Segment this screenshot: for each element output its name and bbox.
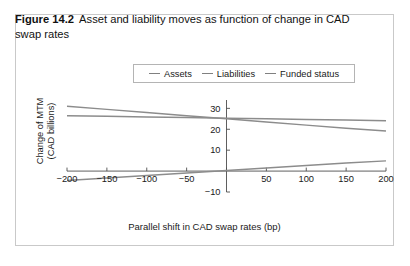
- legend-item-assets: Assets: [149, 69, 192, 79]
- x-axis-tick-label: −150: [96, 174, 117, 184]
- legend-label-assets: Assets: [164, 69, 192, 79]
- figure-label: Figure 14.2: [15, 13, 74, 25]
- x-axis-tick-label: 150: [338, 174, 354, 184]
- y-axis-tick-label: −10: [205, 187, 221, 197]
- legend-item-funded-status: Funded status: [265, 69, 339, 79]
- legend-line-icon: [202, 73, 213, 74]
- x-axis-tick-label: −100: [136, 174, 157, 184]
- y-axis-tick-label: 30: [210, 104, 220, 114]
- chart-plot-area: Change of MTM (CAD billions) −200−150−10…: [15, 90, 394, 240]
- x-axis-tick-label: −50: [179, 174, 195, 184]
- x-axis-tick-label: 50: [261, 174, 271, 184]
- legend-line-icon: [265, 73, 276, 74]
- x-axis-tick-label: 200: [378, 174, 394, 184]
- legend-item-liabilities: Liabilities: [202, 69, 255, 79]
- chart-canvas: −200−150−100−5050100150200−10102030: [15, 90, 394, 220]
- legend-label-funded-status: Funded status: [280, 69, 339, 79]
- x-axis-tick-label: −200: [57, 174, 78, 184]
- legend-line-icon: [149, 73, 160, 74]
- chart-legend: Assets Liabilities Funded status: [133, 64, 355, 83]
- figure-caption: Figure 14.2Asset and liability moves as …: [15, 12, 363, 42]
- x-axis-title: Parallel shift in CAD swap rates (bp): [15, 221, 394, 232]
- y-axis-tick-label: 10: [210, 145, 220, 155]
- x-axis-tick-label: 100: [298, 174, 314, 184]
- y-axis-tick-label: 20: [210, 125, 220, 135]
- legend-label-liabilities: Liabilities: [217, 69, 255, 79]
